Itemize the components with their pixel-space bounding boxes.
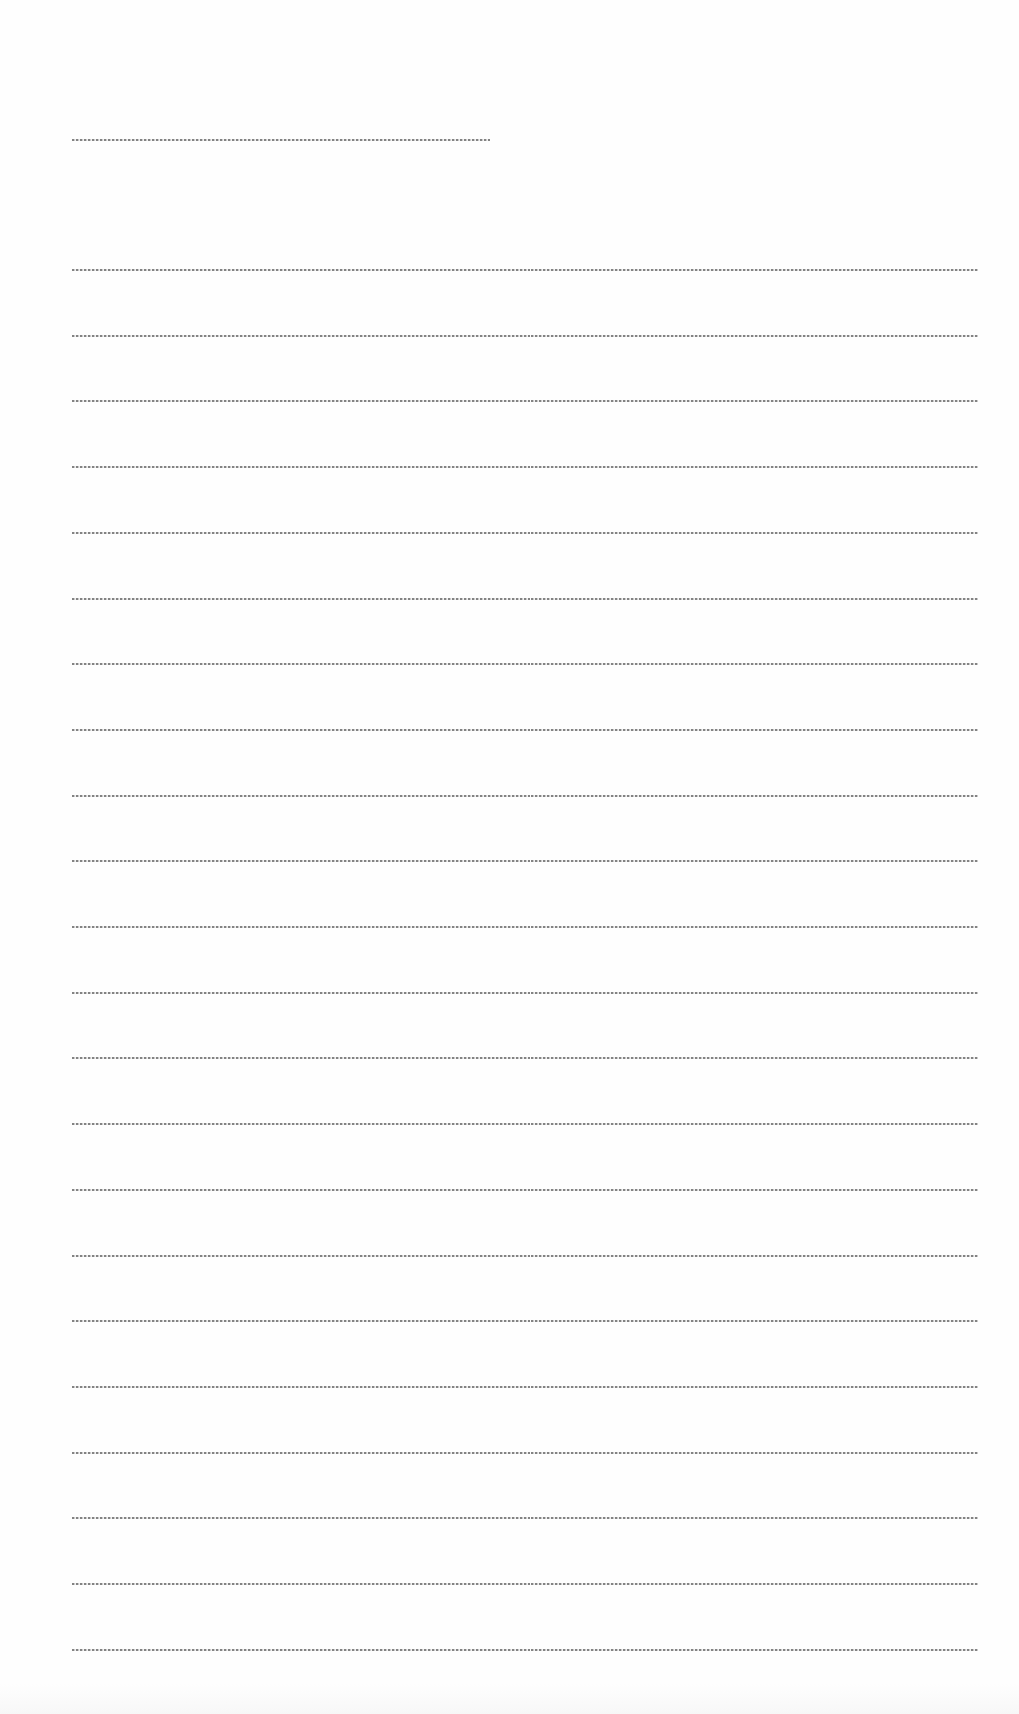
text-row bbox=[0, 1254, 1019, 1258]
text-row bbox=[0, 1451, 1019, 1455]
text-row-left bbox=[72, 400, 530, 402]
text-row bbox=[0, 1056, 1019, 1060]
text-row bbox=[0, 1319, 1019, 1323]
text-row-left bbox=[72, 1123, 530, 1125]
text-row-left bbox=[72, 598, 530, 600]
text-row-right bbox=[531, 1189, 978, 1191]
text-row-left bbox=[72, 1057, 530, 1059]
text-row-left bbox=[72, 663, 530, 665]
text-row bbox=[0, 1385, 1019, 1389]
text-row-right bbox=[531, 795, 978, 797]
text-row bbox=[0, 399, 1019, 403]
text-row-left bbox=[72, 532, 530, 534]
text-row-left bbox=[72, 1189, 530, 1191]
text-row-left bbox=[72, 1255, 530, 1257]
text-row-left bbox=[72, 335, 530, 337]
text-row-right bbox=[531, 1517, 978, 1519]
text-row-right bbox=[531, 729, 978, 731]
text-row-right bbox=[531, 1386, 978, 1388]
text-row-right bbox=[531, 532, 978, 534]
text-row-left bbox=[72, 992, 530, 994]
text-row bbox=[0, 662, 1019, 666]
text-row-right bbox=[531, 1057, 978, 1059]
text-row-left bbox=[72, 860, 530, 862]
text-row-right bbox=[531, 992, 978, 994]
text-row bbox=[0, 925, 1019, 929]
text-row-left bbox=[72, 1320, 530, 1322]
text-row bbox=[0, 531, 1019, 535]
text-row bbox=[0, 1516, 1019, 1520]
text-row-right bbox=[531, 926, 978, 928]
text-row-left bbox=[72, 795, 530, 797]
text-row-right bbox=[531, 269, 978, 271]
text-row-left bbox=[72, 1583, 530, 1585]
text-row-right bbox=[531, 1255, 978, 1257]
document-header-text bbox=[72, 139, 490, 141]
text-row-right bbox=[531, 335, 978, 337]
text-row bbox=[0, 1582, 1019, 1586]
text-row bbox=[0, 1648, 1019, 1652]
text-row bbox=[0, 268, 1019, 272]
text-row-left bbox=[72, 1386, 530, 1388]
page-bottom-edge bbox=[0, 1684, 1019, 1714]
text-row-right bbox=[531, 663, 978, 665]
text-row-left bbox=[72, 1649, 530, 1651]
text-row bbox=[0, 334, 1019, 338]
text-row-left bbox=[72, 926, 530, 928]
text-row-right bbox=[531, 400, 978, 402]
text-row-left bbox=[72, 1517, 530, 1519]
text-row bbox=[0, 859, 1019, 863]
text-row-right bbox=[531, 466, 978, 468]
text-row bbox=[0, 465, 1019, 469]
text-row-right bbox=[531, 598, 978, 600]
text-row-right bbox=[531, 1320, 978, 1322]
text-row-left bbox=[72, 269, 530, 271]
text-row-right bbox=[531, 1123, 978, 1125]
text-row bbox=[0, 597, 1019, 601]
text-row-left bbox=[72, 1452, 530, 1454]
text-row-left bbox=[72, 466, 530, 468]
text-row bbox=[0, 794, 1019, 798]
text-row-right bbox=[531, 1583, 978, 1585]
text-row bbox=[0, 728, 1019, 732]
text-row-left bbox=[72, 729, 530, 731]
text-row bbox=[0, 991, 1019, 995]
text-row-right bbox=[531, 860, 978, 862]
text-row bbox=[0, 1122, 1019, 1126]
text-row-right bbox=[531, 1649, 978, 1651]
document-page bbox=[0, 0, 1019, 1714]
text-row-right bbox=[531, 1452, 978, 1454]
text-row bbox=[0, 1188, 1019, 1192]
